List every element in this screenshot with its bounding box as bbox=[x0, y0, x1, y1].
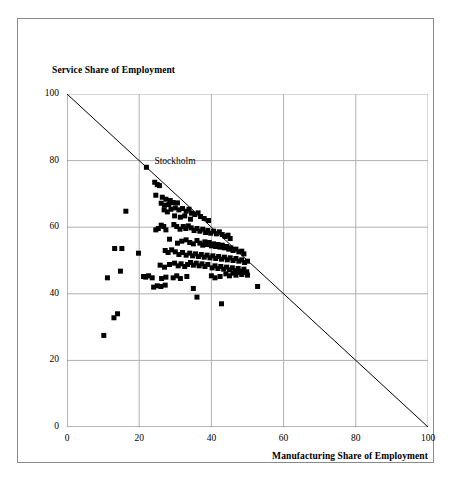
data-point-marker bbox=[168, 207, 173, 212]
data-point-marker bbox=[163, 275, 168, 280]
data-point-marker bbox=[178, 215, 183, 220]
data-point-marker bbox=[167, 237, 172, 242]
data-point-marker bbox=[219, 301, 224, 306]
y-tick-label: 0 bbox=[33, 421, 59, 431]
data-point-marker bbox=[163, 197, 168, 202]
y-tick-label: 80 bbox=[33, 155, 59, 165]
x-tick-label: 80 bbox=[341, 433, 371, 443]
data-point-marker bbox=[136, 251, 141, 256]
data-point-marker bbox=[123, 209, 128, 214]
data-point-marker bbox=[179, 239, 184, 244]
data-point-marker bbox=[184, 274, 189, 279]
x-tick-label: 100 bbox=[413, 433, 443, 443]
data-point-marker bbox=[158, 284, 163, 289]
data-point-marker bbox=[163, 283, 168, 288]
data-point-marker bbox=[166, 202, 171, 207]
y-tick-label: 20 bbox=[33, 354, 59, 364]
data-point-marker bbox=[255, 284, 260, 289]
data-point-marker bbox=[162, 265, 167, 270]
data-point-marker bbox=[171, 200, 176, 205]
data-point-marker bbox=[206, 218, 211, 223]
data-point-marker bbox=[188, 217, 193, 222]
scatter-plot-svg bbox=[67, 94, 428, 427]
data-point-marker bbox=[218, 274, 223, 279]
y-tick-label: 40 bbox=[33, 288, 59, 298]
data-point-marker bbox=[228, 236, 233, 241]
data-point-marker bbox=[172, 213, 177, 218]
data-point-marker bbox=[202, 216, 207, 221]
data-point-marker bbox=[159, 276, 164, 281]
data-point-marker bbox=[162, 203, 167, 208]
data-point-marker bbox=[105, 275, 110, 280]
data-point-marker bbox=[245, 259, 250, 264]
data-point-marker bbox=[119, 246, 124, 251]
x-axis-title: Manufacturing Share of Employment bbox=[272, 451, 428, 461]
data-point-marker bbox=[205, 262, 210, 267]
chart-figure-frame: Service Share of Employment Manufacturin… bbox=[17, 18, 434, 463]
data-point-marker bbox=[157, 183, 162, 188]
data-point-marker bbox=[241, 251, 246, 256]
data-point-marker bbox=[175, 241, 180, 246]
data-point-marker bbox=[101, 333, 106, 338]
data-point-marker bbox=[118, 269, 123, 274]
y-tick-label: 100 bbox=[33, 88, 59, 98]
data-point-marker bbox=[144, 165, 149, 170]
y-tick-label: 60 bbox=[33, 221, 59, 231]
data-point-marker bbox=[153, 193, 158, 198]
point-annotation-stockholm: Stockholm bbox=[154, 156, 195, 166]
data-point-marker bbox=[191, 286, 196, 291]
x-tick-label: 60 bbox=[269, 433, 299, 443]
data-point-marker bbox=[115, 311, 120, 316]
data-point-marker bbox=[178, 276, 183, 281]
y-axis-title: Service Share of Employment bbox=[52, 65, 175, 75]
data-points bbox=[101, 165, 260, 338]
x-tick-label: 40 bbox=[196, 433, 226, 443]
data-point-marker bbox=[158, 263, 163, 268]
data-point-marker bbox=[245, 273, 250, 278]
data-point-marker bbox=[163, 227, 168, 232]
x-tick-label: 0 bbox=[52, 433, 82, 443]
plot-area bbox=[67, 94, 428, 427]
data-point-marker bbox=[213, 275, 218, 280]
data-point-marker bbox=[182, 213, 187, 218]
x-tick-label: 20 bbox=[124, 433, 154, 443]
data-point-marker bbox=[167, 262, 172, 267]
data-point-marker bbox=[194, 295, 199, 300]
data-point-marker bbox=[112, 246, 117, 251]
data-point-marker bbox=[150, 275, 155, 280]
data-point-marker bbox=[175, 200, 180, 205]
